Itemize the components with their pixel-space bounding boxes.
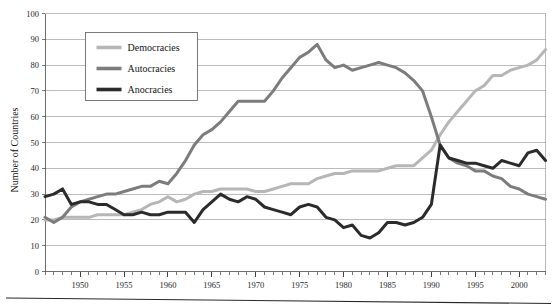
y-tick-label-90: 90 xyxy=(31,34,40,44)
y-tick-label-30: 30 xyxy=(31,189,40,199)
chart-legend: DemocraciesAutocraciesAnocracies xyxy=(86,33,198,101)
x-axis-ticks xyxy=(45,272,546,278)
x-tick-label-1950: 1950 xyxy=(72,280,89,290)
y-tick-label-80: 80 xyxy=(31,60,40,70)
y-axis-ticks xyxy=(42,14,46,272)
x-tick-label-2000: 2000 xyxy=(511,280,528,290)
x-axis-tick-labels: 1950195519601965197019751980198519901995… xyxy=(72,280,528,290)
y-tick-label-0: 0 xyxy=(35,267,39,277)
y-tick-label-40: 40 xyxy=(31,163,40,173)
y-tick-label-70: 70 xyxy=(31,86,40,96)
legend-label-autocracies: Autocracies xyxy=(128,63,176,74)
page-footer-rule xyxy=(6,298,551,304)
chart-figure: Number of Countries 01020304050607080901… xyxy=(0,0,557,308)
y-tick-label-60: 60 xyxy=(31,112,40,122)
x-tick-label-1995: 1995 xyxy=(467,280,484,290)
y-tick-label-10: 10 xyxy=(31,241,40,251)
x-tick-label-1990: 1990 xyxy=(423,280,440,290)
x-tick-label-1965: 1965 xyxy=(203,280,220,290)
y-tick-label-100: 100 xyxy=(26,9,39,19)
legend-label-anocracies: Anocracies xyxy=(128,84,173,95)
y-axis-title: Number of Countries xyxy=(9,107,20,192)
y-tick-label-50: 50 xyxy=(31,138,40,148)
y-axis-title-group: Number of Countries xyxy=(9,107,20,192)
x-tick-label-1985: 1985 xyxy=(379,280,396,290)
x-tick-label-1960: 1960 xyxy=(159,280,176,290)
line-chart-number-of-countries: Number of Countries 01020304050607080901… xyxy=(0,0,557,308)
x-tick-label-1955: 1955 xyxy=(116,280,133,290)
x-tick-label-1970: 1970 xyxy=(247,280,264,290)
legend-label-democracies: Democracies xyxy=(128,42,180,53)
x-tick-label-1975: 1975 xyxy=(291,280,308,290)
x-tick-label-1980: 1980 xyxy=(335,280,352,290)
y-tick-label-20: 20 xyxy=(31,215,40,225)
y-axis-tick-labels: 0102030405060708090100 xyxy=(26,9,39,277)
